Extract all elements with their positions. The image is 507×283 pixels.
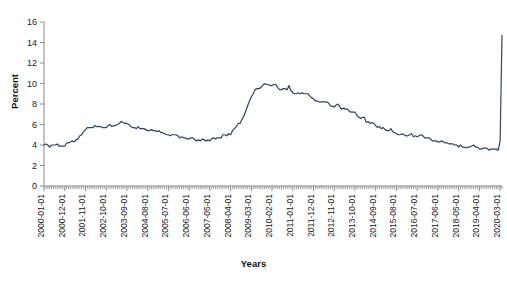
y-tick-label: 12	[27, 58, 37, 68]
x-tick-label: 2010-02-01	[264, 194, 274, 238]
x-tick-label: 2003-09-01	[119, 194, 129, 238]
x-tick-label: 2004-08-01	[140, 194, 150, 238]
line-chart-plot: 1614121086420 2000-01-012000-12-012001-1…	[0, 0, 507, 258]
x-tick-label: 2014-09-01	[368, 194, 378, 238]
y-tick-label: 8	[32, 99, 37, 109]
x-tick-label: 2001-11-01	[77, 194, 87, 237]
x-tick-label: 2012-11-01	[326, 194, 336, 237]
x-tick-label: 2019-04-01	[471, 194, 481, 238]
y-tick-label: 4	[32, 140, 37, 150]
x-tick-label: 2008-04-01	[223, 194, 233, 238]
x-tick-label: 2009-03-01	[243, 194, 253, 238]
y-tick-label: 16	[27, 17, 37, 27]
x-tick-label: 2018-05-01	[451, 194, 461, 238]
x-tick-label: 2005-07-01	[160, 194, 170, 238]
x-tick-label: 2015-08-01	[388, 194, 398, 238]
x-tick-label: 2011-12-01	[306, 194, 316, 237]
y-tick-label: 10	[27, 79, 37, 89]
x-tick-label: 2016-07-01	[409, 194, 419, 238]
x-tick-label: 2011-01-01	[285, 194, 295, 237]
y-tick-label: 14	[27, 38, 37, 48]
y-tick-label: 0	[32, 181, 37, 191]
x-tick-label: 2020-03-01	[492, 194, 502, 238]
x-axis-ticks: 2000-01-012000-12-012001-11-012002-10-01…	[36, 186, 502, 237]
y-tick-label: 6	[32, 120, 37, 130]
chart-figure: Unemployment Rate, Monthly Percent 16141…	[0, 0, 507, 283]
x-axis-label: Years	[0, 258, 507, 269]
x-tick-label: 2007-05-01	[202, 194, 212, 238]
x-tick-label: 2000-12-01	[57, 194, 67, 238]
y-axis-ticks: 1614121086420	[27, 17, 44, 191]
x-tick-label: 2017-06-01	[430, 194, 440, 238]
y-axis-label: Percent	[9, 64, 20, 120]
x-tick-label: 2006-06-01	[181, 194, 191, 238]
x-tick-label: 2000-01-01	[36, 194, 46, 238]
unemployment-rate-line	[44, 35, 502, 150]
y-tick-label: 2	[32, 161, 37, 171]
x-tick-label: 2002-10-01	[98, 194, 108, 238]
x-tick-label: 2013-10-01	[347, 194, 357, 238]
